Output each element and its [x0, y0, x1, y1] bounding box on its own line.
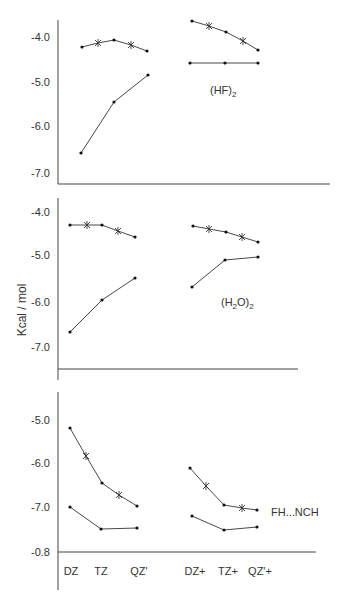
data-point [190, 285, 193, 288]
y-tick-label: -5.0 [31, 76, 50, 88]
series-line [81, 75, 148, 153]
x-category-label: TZ [94, 565, 108, 577]
data-point [100, 298, 103, 301]
series-line [192, 516, 257, 530]
data-point [133, 276, 136, 279]
data-point [256, 255, 259, 258]
data-point [188, 61, 191, 64]
series-line [70, 507, 137, 529]
y-tick-label: -6.0 [31, 457, 50, 469]
y-tick-label: -7.0 [31, 341, 50, 353]
data-point [190, 514, 193, 517]
star-marker [115, 227, 121, 235]
data-point [256, 240, 259, 243]
data-point [112, 100, 115, 103]
y-tick-label: -5.0 [31, 414, 50, 426]
y-tick-label: -6.0 [31, 120, 50, 132]
data-point [223, 258, 226, 261]
x-category-label: TZ+ [218, 565, 238, 577]
panel-hf2: -4.0 -5.0 -6.0 -7.0 (HF)2 [31, 19, 330, 184]
panel-label-hf2: (HF)2 [210, 84, 237, 99]
data-point [99, 527, 102, 530]
series-line [192, 21, 258, 50]
star-marker [206, 22, 212, 30]
y-tick-label: -5.0 [31, 249, 50, 261]
panel-h2o2: -4.0 -5.0 -6.0 -7.0 (H2O)2 Kcal / mol [15, 198, 298, 380]
panel-label-fhnch: FH...NCH [271, 506, 319, 518]
data-point [224, 30, 227, 33]
x-category-label: QZ'+ [248, 565, 272, 577]
data-point [100, 223, 103, 226]
data-point [145, 49, 148, 52]
data-point [190, 19, 193, 22]
chart-figure: -4.0 -5.0 -6.0 -7.0 (HF)2 -4.0 -5 [0, 0, 337, 606]
x-category-label: DZ [64, 565, 79, 577]
panel-label-h2o2: (H2O)2 [221, 296, 254, 311]
star-marker [128, 41, 134, 49]
y-tick-label: -6.0 [31, 296, 50, 308]
data-point [256, 61, 259, 64]
data-point [255, 508, 258, 511]
data-point [223, 61, 226, 64]
series-line [70, 428, 137, 506]
data-point [68, 330, 71, 333]
x-category-label: QZ' [130, 565, 147, 577]
data-point [68, 426, 71, 429]
data-point [191, 224, 194, 227]
series-line [70, 278, 135, 332]
series-line [70, 225, 135, 237]
data-point [256, 48, 259, 51]
data-point [188, 466, 191, 469]
data-point [100, 481, 103, 484]
series-line [82, 40, 147, 51]
y-axis-label: Kcal / mol [15, 284, 29, 337]
data-point [224, 230, 227, 233]
y-tick-label: -4.0 [31, 31, 50, 43]
data-point [133, 235, 136, 238]
data-point [68, 223, 71, 226]
data-point [79, 151, 82, 154]
panel-fhnch: -5.0 -6.0 -7.0 -0.8 FH...NCH DZ TZ QZ' [31, 392, 319, 590]
y-tick-label: -7.0 [31, 501, 50, 513]
y-tick-label: -0.8 [31, 546, 50, 558]
data-point [146, 73, 149, 76]
x-category-label: DZ+ [184, 565, 205, 577]
series-line [193, 226, 258, 242]
data-point [135, 504, 138, 507]
data-point [135, 526, 138, 529]
data-point [222, 528, 225, 531]
data-point [112, 38, 115, 41]
data-point [68, 505, 71, 508]
star-marker [239, 233, 245, 241]
star-marker [240, 37, 246, 45]
star-marker [116, 491, 122, 499]
data-point [255, 525, 258, 528]
data-point [80, 45, 83, 48]
data-point [222, 503, 225, 506]
y-tick-label: -4.0 [31, 206, 50, 218]
y-tick-label: -7.0 [31, 167, 50, 179]
